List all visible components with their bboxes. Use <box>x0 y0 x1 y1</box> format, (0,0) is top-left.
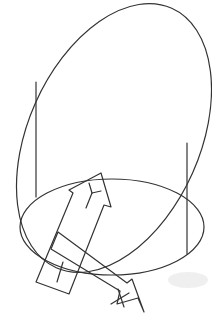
y-arrow-base-mark <box>57 262 63 282</box>
x-arrow-outline <box>51 232 144 312</box>
y-axis-arrow <box>36 173 111 294</box>
base-ellipse <box>20 179 204 275</box>
y-letter-icon <box>86 183 101 208</box>
diagram-canvas <box>0 0 212 331</box>
x-axis-arrow <box>51 232 144 312</box>
smudge-mark <box>168 272 208 288</box>
tilted-ellipse <box>0 0 212 303</box>
